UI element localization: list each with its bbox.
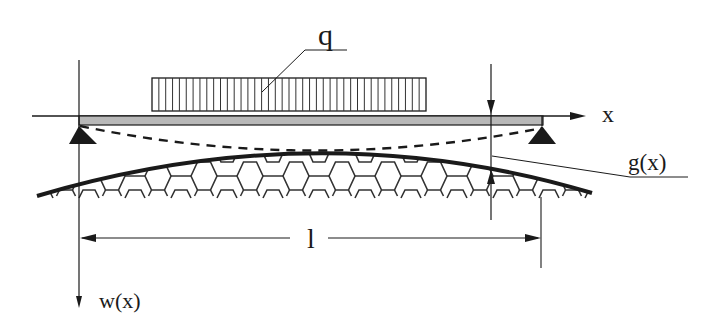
q-label: q — [318, 18, 333, 51]
distributed-load-q — [152, 78, 426, 111]
x-axis-label: x — [602, 101, 614, 127]
span-arrow-right-icon — [525, 234, 541, 242]
w-axis-label: w(x) — [99, 288, 141, 313]
left-support-icon — [69, 126, 97, 144]
gap-label: g(x) — [628, 150, 666, 175]
deflection-curve — [80, 126, 542, 151]
beam — [79, 116, 543, 125]
span-arrow-left-icon — [80, 234, 96, 242]
span-label: l — [307, 223, 315, 254]
x-axis-arrow-icon — [570, 112, 586, 120]
w-axis-arrow-icon — [76, 296, 82, 308]
q-leader-line — [262, 50, 347, 92]
gap-arrow-down-icon — [487, 100, 495, 114]
beam-foundation-diagram: q w(x) g(x) x l — [0, 0, 713, 329]
gap-arrow-up-icon — [487, 170, 495, 184]
